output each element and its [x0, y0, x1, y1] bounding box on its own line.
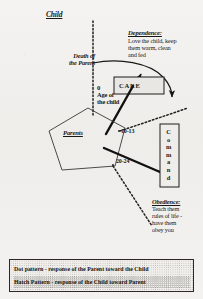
parents-label: Parents [63, 129, 83, 136]
hatch-stroke-command [104, 148, 160, 172]
legend-row: Dot pattern - response of the Parent tow… [14, 263, 190, 275]
age-marker-tick-1 [118, 130, 120, 132]
dotted-diagonal-lower [113, 166, 152, 226]
death-of-parent-label: Death of the Parent [47, 52, 95, 66]
legend-row: Hatch Pattern - response of the Child to… [14, 276, 190, 288]
axis-age-label: Age of the child [97, 91, 137, 105]
parents-pentagon [49, 108, 125, 170]
age-marker-tick-2 [112, 164, 114, 166]
dependence-heading: Dependence: [128, 29, 162, 36]
obedience-body: Teach them rules of life - have them obe… [152, 206, 194, 234]
legend-box: Dot pattern - response of the Parent tow… [9, 259, 194, 292]
age-marker-20-24: 20-24 [116, 158, 129, 165]
care-box-label: CARE [119, 82, 140, 89]
diagram-page: Child Death of the Parent Dependence: Lo… [0, 0, 203, 299]
dependence-body: Love the child, keep them warm, clean an… [128, 37, 198, 58]
child-title: Child [46, 11, 62, 19]
age-marker-10-13: 10-13 [121, 128, 134, 135]
command-box-label: C o m m a n d [164, 128, 173, 181]
